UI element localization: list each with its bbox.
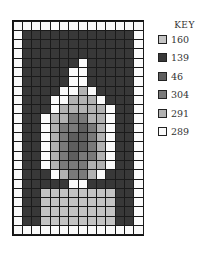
key-item: 289 [158, 123, 207, 142]
key-item: 139 [158, 49, 207, 68]
key-label: 304 [171, 89, 189, 100]
swatch-icon [158, 35, 167, 44]
pattern-grid [12, 20, 144, 236]
key-label: 46 [171, 71, 183, 82]
key-item: 46 [158, 67, 207, 86]
key-label: 139 [171, 52, 189, 63]
key-label: 160 [171, 34, 189, 45]
swatch-icon [158, 90, 167, 99]
key-item: 160 [158, 30, 207, 49]
swatch-icon [158, 109, 167, 118]
swatch-icon [158, 53, 167, 62]
key-label: 291 [171, 108, 189, 119]
key-item: 304 [158, 86, 207, 105]
swatch-icon [158, 127, 167, 136]
key-item: 291 [158, 104, 207, 123]
color-key: KEY 160 139 46 304 291 289 [158, 20, 207, 141]
swatch-icon [158, 72, 167, 81]
grid-cell [133, 225, 143, 235]
key-label: 289 [171, 126, 189, 137]
key-title: KEY [162, 20, 207, 30]
